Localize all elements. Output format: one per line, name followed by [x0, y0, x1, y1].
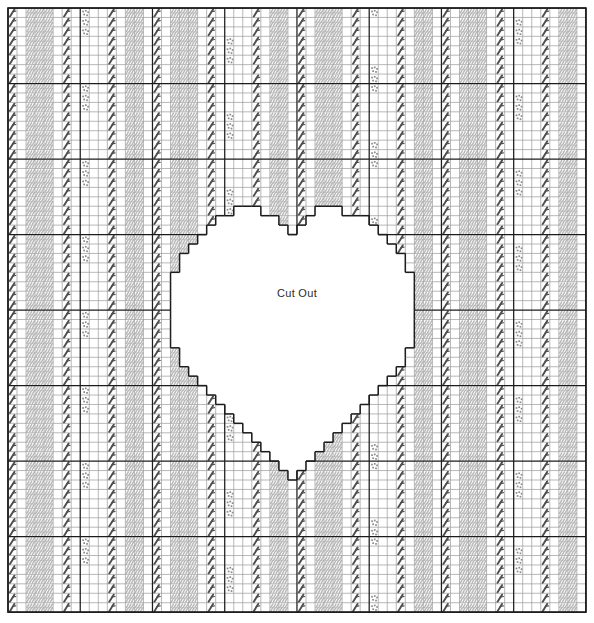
chart-canvas: Cut Out	[0, 0, 594, 623]
cutout-label: Cut Out	[277, 287, 317, 299]
pattern-chart: Cut Out	[0, 0, 594, 623]
